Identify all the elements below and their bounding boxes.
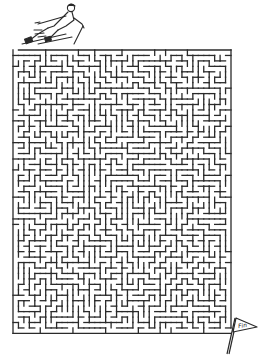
finish-flag-icon: Fin <box>226 314 259 359</box>
maze-walls <box>13 50 231 333</box>
maze-board <box>0 0 259 359</box>
